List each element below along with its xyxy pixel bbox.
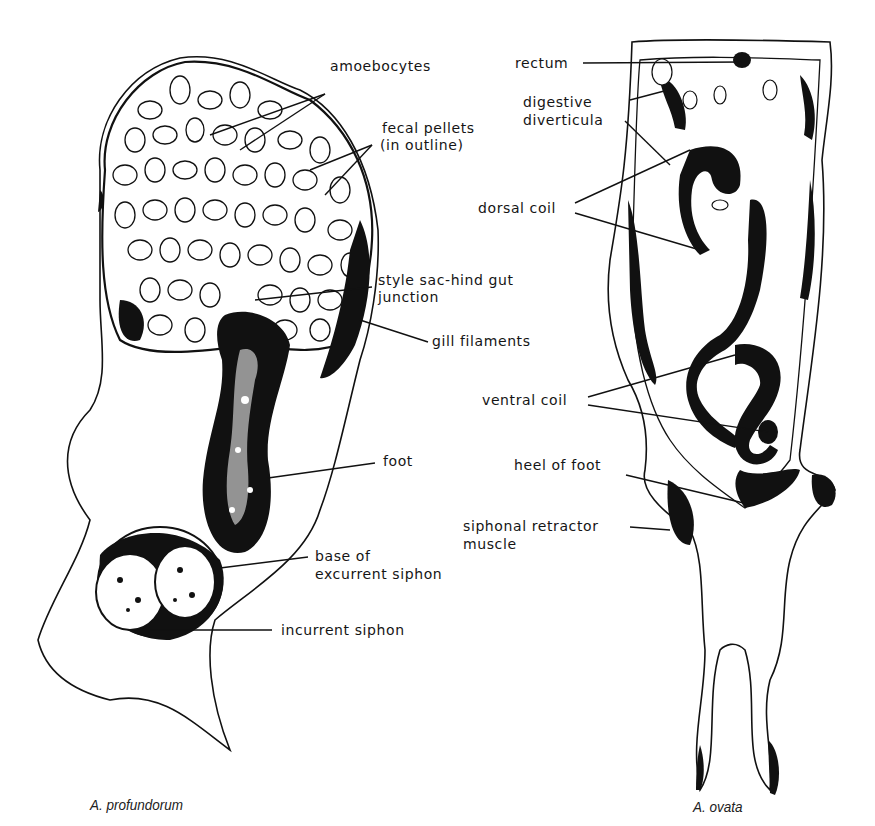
caption-left-specimen: A. profundorum [90,796,183,813]
label-digestive: digestive [523,94,592,111]
label-fecal-pellets-outline: (in outline) [380,137,464,154]
label-fecal-pellets: fecal pellets [382,120,475,137]
label-amoebocytes: amoebocytes [330,58,431,75]
label-incurrent-siphon: incurrent siphon [281,622,405,639]
label-style-sac-junction: junction [378,289,439,306]
label-dorsal-coil: dorsal coil [478,200,556,217]
label-muscle: muscle [463,536,517,553]
right-diverticula [652,59,777,210]
label-gill-filaments: gill filaments [432,333,531,350]
fecal-pellets-cluster [113,76,359,342]
label-heel-of-foot: heel of foot [514,457,601,474]
label-style-sac: style sac-hind gut [378,272,514,289]
label-diverticula: diverticula [523,112,603,129]
label-base-of: base of [315,548,371,565]
left-siphons [96,527,224,640]
label-foot: foot [383,453,413,470]
label-ventral-coil: ventral coil [482,392,567,409]
label-rectum: rectum [515,55,568,72]
label-excurrent-siphon: excurrent siphon [315,566,442,583]
caption-right-specimen: A. ovata [693,798,743,815]
label-siphonal-retractor: siphonal retractor [463,518,599,535]
